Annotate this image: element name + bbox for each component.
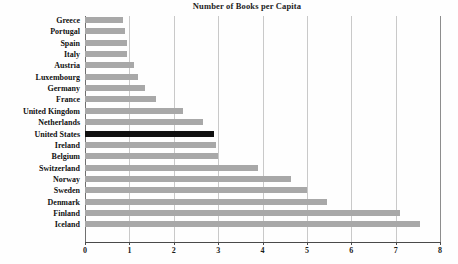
category-label-united-kingdom: United Kingdom: [0, 108, 80, 116]
x-tick-label-3: 3: [206, 246, 230, 255]
category-label-netherlands: Netherlands: [0, 119, 80, 127]
x-tick-label-1: 1: [117, 246, 141, 255]
bar-austria: [85, 62, 134, 68]
bar-denmark: [85, 199, 327, 205]
category-label-denmark: Denmark: [0, 199, 80, 207]
bar-row: Netherlands: [0, 119, 458, 130]
bar-iceland: [85, 221, 420, 227]
x-tick-mark-4: [263, 242, 264, 245]
chart-title: Number of Books per Capita: [0, 0, 458, 13]
x-tick-mark-7: [396, 242, 397, 245]
chart-container: Number of Books per Capita 012345678Gree…: [0, 0, 458, 264]
category-label-ireland: Ireland: [0, 142, 80, 150]
x-tick-mark-1: [129, 242, 130, 245]
x-tick-label-8: 8: [428, 246, 452, 255]
bar-norway: [85, 176, 291, 182]
bar-luxembourg: [85, 74, 138, 80]
bar-germany: [85, 85, 145, 91]
category-label-portugal: Portugal: [0, 28, 80, 36]
bar-greece: [85, 17, 123, 23]
bar-netherlands: [85, 119, 203, 125]
category-label-norway: Norway: [0, 176, 80, 184]
bar-united-states: [85, 131, 214, 137]
category-label-belgium: Belgium: [0, 153, 80, 161]
category-label-iceland: Iceland: [0, 221, 80, 229]
category-label-germany: Germany: [0, 85, 80, 93]
bar-ireland: [85, 142, 216, 148]
category-label-spain: Spain: [0, 40, 80, 48]
x-tick-mark-3: [218, 242, 219, 245]
bar-belgium: [85, 153, 218, 159]
x-tick-label-2: 2: [162, 246, 186, 255]
x-tick-label-4: 4: [251, 246, 275, 255]
category-label-united-states: United States: [0, 131, 80, 139]
bar-row: Belgium: [0, 153, 458, 164]
category-label-luxembourg: Luxembourg: [0, 74, 80, 82]
bar-row: Sweden: [0, 187, 458, 198]
category-label-italy: Italy: [0, 51, 80, 59]
bar-row: Iceland: [0, 221, 458, 232]
bar-spain: [85, 40, 127, 46]
category-label-greece: Greece: [0, 17, 80, 25]
x-tick-mark-2: [174, 242, 175, 245]
category-label-switzerland: Switzerland: [0, 165, 80, 173]
x-tick-label-7: 7: [384, 246, 408, 255]
x-tick-label-0: 0: [73, 246, 97, 255]
category-label-france: France: [0, 96, 80, 104]
x-tick-mark-5: [307, 242, 308, 245]
category-label-finland: Finland: [0, 210, 80, 218]
bar-sweden: [85, 187, 307, 193]
x-tick-label-5: 5: [295, 246, 319, 255]
category-label-sweden: Sweden: [0, 187, 80, 195]
bar-switzerland: [85, 165, 258, 171]
bar-row: Portugal: [0, 28, 458, 39]
bar-finland: [85, 210, 400, 216]
bar-italy: [85, 51, 127, 57]
bar-france: [85, 96, 156, 102]
category-label-austria: Austria: [0, 62, 80, 70]
x-tick-label-6: 6: [339, 246, 363, 255]
x-tick-mark-6: [351, 242, 352, 245]
bar-portugal: [85, 28, 125, 34]
x-tick-mark-0: [85, 242, 86, 245]
bar-united-kingdom: [85, 108, 183, 114]
x-tick-mark-8: [440, 242, 441, 245]
